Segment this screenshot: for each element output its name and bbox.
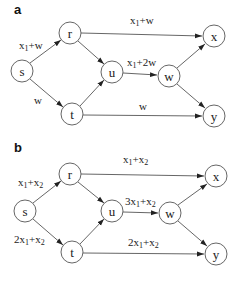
node-y: y (205, 243, 227, 265)
node-w: w (159, 202, 181, 224)
edge-r-u (78, 182, 104, 203)
node-t: t (61, 241, 83, 263)
svg-text:r: r (68, 167, 73, 182)
svg-text:u: u (109, 204, 116, 219)
edge-label-s-r: x1+x2 (18, 176, 43, 190)
node-u: u (101, 61, 123, 83)
edge-t-y (83, 115, 202, 116)
edge-t-u (80, 80, 104, 106)
edge-r-u (78, 41, 104, 64)
node-u: u (101, 200, 123, 222)
edge-label-r-x: x1+x2 (123, 153, 148, 167)
edge-r-x (81, 33, 202, 36)
edge-u-w (123, 212, 158, 213)
edge-t-y (83, 253, 204, 254)
panel-a-label: a (14, 2, 22, 17)
panel-b: b x1+x2 2x1+x2 x1+x2 3x1+x2 2x1+x2 s r t… (14, 140, 227, 265)
node-x: x (203, 25, 225, 47)
svg-text:w: w (165, 206, 175, 221)
svg-text:s: s (22, 204, 27, 219)
node-y: y (203, 105, 225, 127)
node-s: s (11, 60, 33, 82)
panel-a: a x1+w w x1+w x1+2w w s r t u w x y (11, 2, 225, 127)
edge-u-w (123, 73, 157, 75)
edge-label-u-w: x1+2w (127, 56, 156, 70)
svg-text:y: y (213, 247, 220, 262)
edge-label-u-w: 3x1+x2 (125, 195, 156, 209)
svg-text:u: u (109, 65, 116, 80)
node-r: r (59, 163, 81, 185)
panel-b-label: b (14, 140, 22, 155)
node-x: x (205, 165, 227, 187)
node-w: w (158, 65, 180, 87)
svg-text:w: w (164, 69, 174, 84)
edge-t-u (80, 219, 104, 244)
edge-w-y (178, 221, 207, 246)
node-t: t (61, 103, 83, 125)
svg-text:s: s (19, 64, 24, 79)
edge-label-s-r: x1+w (19, 39, 43, 53)
edge-label-s-t: 2x1+x2 (14, 233, 45, 247)
svg-text:x: x (213, 169, 220, 184)
svg-text:t: t (70, 107, 74, 122)
node-r: r (59, 22, 81, 44)
svg-text:t: t (70, 245, 74, 260)
svg-text:y: y (211, 109, 218, 124)
node-s: s (14, 200, 36, 222)
edge-w-x (178, 184, 207, 205)
edge-label-s-t: w (34, 94, 42, 106)
svg-text:x: x (211, 29, 218, 44)
edge-label-t-y: w (139, 100, 147, 112)
edge-w-x (177, 44, 205, 68)
edge-label-r-x: x1+w (130, 14, 154, 28)
edge-label-t-y: 2x1+x2 (128, 236, 159, 250)
svg-text:r: r (68, 26, 73, 41)
edge-w-y (177, 84, 205, 108)
edge-r-x (81, 174, 204, 176)
network-diagram-figure: a x1+w w x1+w x1+2w w s r t u w x y b (0, 0, 238, 281)
